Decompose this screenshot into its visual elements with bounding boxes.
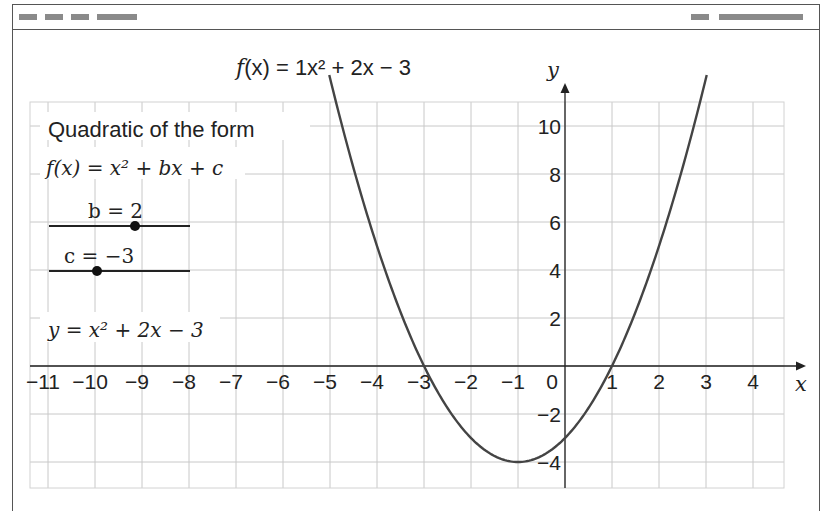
slider-c-handle[interactable] [92, 266, 102, 276]
x-tick-label: −9 [125, 370, 149, 393]
y-axis-label: y [546, 58, 560, 82]
y-tick-label: 6 [549, 211, 561, 234]
graph-canvas[interactable]: −11−10−9−8−7−6−5−4−3−2−101234 108642−2−4… [0, 0, 824, 511]
slider-b-label: b = 2 [88, 199, 143, 223]
x-axis-arrow-icon [796, 362, 806, 371]
x-axis-label: x [795, 372, 807, 396]
x-tick-label: −1 [501, 370, 525, 393]
result-equation: y = x² + 2x − 3 [47, 318, 204, 342]
x-tick-label: 4 [747, 370, 759, 393]
x-tick-label: −10 [72, 370, 108, 393]
y-tick-label: −2 [537, 403, 561, 426]
x-tick-label: −5 [313, 370, 337, 393]
control-panel: Quadratic of the form f(x) = x² + bx + c… [40, 112, 310, 342]
slider-b-handle[interactable] [130, 221, 140, 231]
y-tick-label: 4 [549, 259, 561, 282]
x-tick-label: −4 [360, 370, 384, 393]
x-tick-label: 2 [653, 370, 665, 393]
function-label: f(x) = 1x² + 2x − 3 [234, 55, 411, 80]
x-tick-label: 3 [700, 370, 712, 393]
y-tick-labels: 108642−2−4 [537, 115, 561, 474]
y-tick-label: 2 [549, 307, 561, 330]
x-tick-label: −2 [454, 370, 478, 393]
slider-c-label: c = −3 [64, 244, 134, 268]
x-tick-label: −11 [26, 370, 60, 393]
y-axis-arrow-icon [561, 83, 570, 93]
panel-heading: Quadratic of the form [48, 117, 255, 142]
y-tick-label: −4 [537, 451, 561, 474]
general-form: f(x) = x² + bx + c [44, 156, 223, 180]
x-tick-label: −8 [172, 370, 196, 393]
y-tick-label: 10 [538, 115, 561, 138]
y-tick-label: 8 [549, 163, 561, 186]
x-tick-label: −7 [219, 370, 243, 393]
function-label-body: (x) = 1x² + 2x − 3 [244, 55, 411, 80]
x-tick-labels: −11−10−9−8−7−6−5−4−3−2−101234 [26, 370, 759, 393]
x-tick-label: 0 [546, 370, 558, 393]
x-tick-label: −6 [266, 370, 290, 393]
